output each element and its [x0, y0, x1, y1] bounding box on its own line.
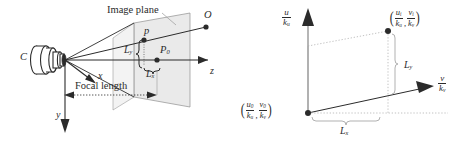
- camera-model-figure: C Image plane Focal length x y z O p P0 …: [0, 0, 472, 146]
- right-lx-label: Lx: [340, 126, 348, 137]
- origin-coordinate-label: ( u0 ku , v0 kv ): [240, 100, 272, 120]
- v-axis-label: v kv: [438, 74, 446, 95]
- point-i-u-fraction: ui ku: [395, 8, 403, 28]
- right-lx-brace: [312, 117, 380, 125]
- image-point-label: p: [144, 26, 149, 37]
- z-axis-arrowhead: [198, 56, 208, 64]
- u-axis-fraction: u ku: [282, 8, 291, 29]
- point-i-coordinate-label: ( ui ku , vi kv ): [389, 8, 421, 28]
- left-lx-subscript: x: [152, 72, 155, 79]
- origin-close-paren: ): [268, 104, 272, 117]
- point-i-pair: ( ui ku , vi kv ): [389, 8, 421, 28]
- v-axis-fraction: v kv: [438, 74, 446, 95]
- point-i-close-paren: ): [416, 12, 420, 25]
- u-axis-arrowhead: [302, 8, 314, 26]
- right-ly-brace: [392, 34, 398, 94]
- right-ly-subscript: y: [410, 63, 413, 70]
- origin-v-denominator: kv: [259, 111, 267, 121]
- u-axis-label: u ku: [282, 8, 291, 29]
- left-ly-label: Ly: [124, 45, 132, 56]
- u-axis-denominator: ku: [282, 18, 291, 28]
- object-point-marker: [203, 24, 208, 29]
- point-i-u-denominator: ku: [395, 19, 403, 29]
- object-point-label: O: [204, 10, 212, 21]
- principal-point-label: P0: [160, 45, 170, 56]
- image-coordinates-panel: u ku v kv ( ui ku , vi kv: [236, 0, 472, 146]
- image-coordinates-drawing: [236, 0, 472, 146]
- pinhole-camera-drawing: [0, 0, 236, 146]
- point-i-comma: ,: [403, 19, 407, 28]
- point-i-v-denominator: kv: [407, 19, 415, 29]
- origin-v-fraction: v0 kv: [259, 100, 267, 120]
- origin-comma: ,: [254, 111, 258, 120]
- left-lx-label: Lx: [146, 69, 154, 80]
- y-axis-arrowhead: [61, 119, 70, 133]
- z-axis-label: z: [210, 66, 214, 76]
- pinhole-camera-panel: C Image plane Focal length x y z O p P0 …: [0, 0, 236, 146]
- focal-length-label: Focal length: [75, 81, 127, 92]
- origin-open-paren: (: [241, 104, 245, 117]
- origin-point-marker: [305, 110, 311, 116]
- image-point-marker: [141, 37, 146, 42]
- principal-point-subscript: 0: [166, 48, 169, 55]
- y-axis-label: y: [56, 110, 60, 120]
- point-i-open-paren: (: [390, 12, 394, 25]
- origin-u-denominator: ku: [246, 111, 255, 121]
- frustum-near-quad: [113, 23, 134, 110]
- x-axis-label: x: [98, 71, 102, 81]
- image-plane-label: Image plane: [107, 5, 159, 16]
- camera-body-icon: [31, 46, 67, 74]
- v-axis-arrowhead: [416, 81, 434, 93]
- point-i-v-fraction: vi kv: [407, 8, 415, 28]
- v-axis-denominator: kv: [438, 84, 446, 94]
- point-i-horizontal-guide: [308, 31, 388, 46]
- point-i-marker: [385, 28, 391, 34]
- origin-pair: ( u0 ku , v0 kv ): [240, 100, 272, 120]
- right-ly-label: Ly: [404, 60, 412, 71]
- left-ly-subscript: y: [130, 48, 133, 55]
- v-axis-line: [308, 88, 424, 113]
- principal-point-marker: [154, 57, 159, 62]
- right-lx-subscript: x: [346, 129, 349, 136]
- camera-center-label: C: [20, 52, 27, 63]
- origin-u-fraction: u0 ku: [246, 100, 255, 120]
